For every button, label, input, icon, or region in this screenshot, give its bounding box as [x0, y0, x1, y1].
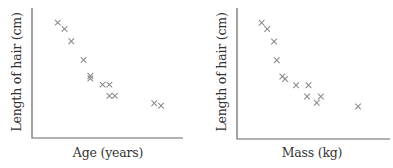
data-point-x-marker [318, 94, 324, 100]
data-point-x-marker [355, 104, 361, 110]
data-point-x-marker [158, 103, 164, 109]
data-point-x-marker [81, 57, 87, 63]
data-point-x-marker [274, 57, 280, 63]
axes [32, 8, 183, 138]
data-point-x-marker [107, 93, 113, 99]
data-point-x-marker [271, 39, 277, 45]
plot-area [0, 0, 196, 168]
y-axis-label: Length of hair (cm) [9, 12, 24, 131]
scatter-chart-age: Length of hair (cm) Age (years) [0, 0, 196, 168]
y-axis-label: Length of hair (cm) [214, 12, 229, 131]
data-point-x-marker [282, 76, 288, 82]
x-axis-label: Age (years) [73, 145, 143, 160]
data-point-x-marker [314, 100, 320, 106]
data-point-x-marker [306, 82, 312, 88]
data-point-x-marker [100, 82, 106, 88]
data-point-x-marker [107, 82, 113, 88]
data-point-x-marker [264, 26, 270, 32]
data-point-x-marker [55, 20, 61, 26]
data-point-x-marker [304, 94, 310, 100]
data-point-x-marker [62, 26, 68, 32]
x-axis-label: Mass (kg) [282, 145, 343, 160]
data-point-x-marker [259, 20, 265, 26]
data-point-x-marker [293, 82, 299, 88]
data-point-x-marker [69, 38, 75, 44]
data-point-x-marker [151, 100, 157, 106]
scatter-chart-mass: Length of hair (cm) Mass (kg) [196, 0, 393, 168]
data-point-x-marker [112, 93, 118, 99]
axes [237, 8, 390, 139]
